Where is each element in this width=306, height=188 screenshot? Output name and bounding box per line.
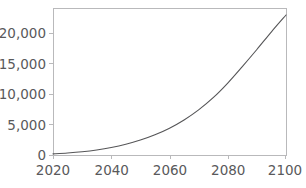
y-tick-label: 20,000 bbox=[0, 25, 46, 41]
line-chart: 0 5,000 10,000 15,000 20,000 2020 2040 2… bbox=[0, 0, 306, 188]
y-axis-ticks bbox=[49, 33, 53, 155]
y-tick-label: 10,000 bbox=[0, 86, 46, 102]
x-tick-label: 2100 bbox=[268, 162, 302, 178]
x-tick-label: 2060 bbox=[153, 162, 187, 178]
x-axis-ticks bbox=[54, 155, 286, 159]
x-tick-label: 2040 bbox=[95, 162, 129, 178]
x-tick-label: 2020 bbox=[36, 162, 70, 178]
x-tick-label: 2080 bbox=[211, 162, 245, 178]
y-tick-label: 0 bbox=[37, 147, 46, 163]
plot-frame bbox=[53, 8, 286, 155]
y-tick-label: 5,000 bbox=[7, 117, 46, 133]
y-tick-label: 15,000 bbox=[0, 56, 46, 72]
chart-container: 0 5,000 10,000 15,000 20,000 2020 2040 2… bbox=[0, 0, 306, 188]
y-axis-labels: 0 5,000 10,000 15,000 20,000 bbox=[0, 25, 46, 163]
x-axis-labels: 2020 2040 2060 2080 2100 bbox=[36, 162, 302, 178]
